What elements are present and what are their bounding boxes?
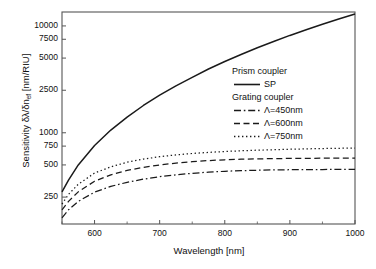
chart-figure: Sensitivity δλ/δnef [nm/RIU] Wavelength … <box>0 0 376 269</box>
legend-entry-label: Λ=750nm <box>264 131 303 141</box>
legend-entry-label: Λ=450nm <box>264 105 303 115</box>
plot-frame <box>62 12 355 224</box>
series-line--600nm <box>62 158 355 210</box>
legend-entry-label: Λ=600nm <box>264 118 303 128</box>
legend-entry-label: SP <box>264 79 276 89</box>
series-line-sp <box>62 14 355 192</box>
series-line--750nm <box>62 148 355 204</box>
legend-group-heading: Grating coupler <box>232 92 294 102</box>
series-line--450nm <box>62 169 355 217</box>
plot-area <box>0 0 376 269</box>
legend-group-heading: Prism coupler <box>232 66 287 76</box>
